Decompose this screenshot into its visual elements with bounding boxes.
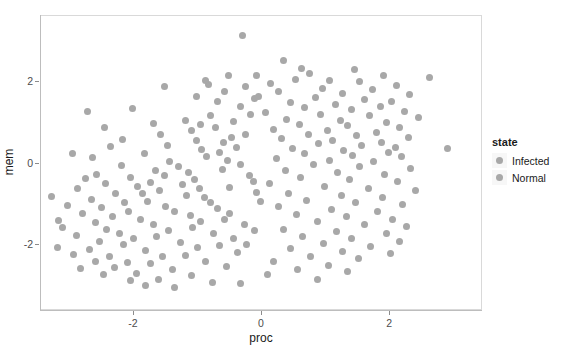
legend-key-swatch	[492, 153, 507, 168]
data-point	[70, 251, 77, 258]
data-point	[383, 119, 390, 126]
data-point	[373, 129, 380, 136]
x-tick-mark	[133, 311, 134, 315]
data-point	[150, 221, 157, 228]
data-point	[185, 169, 192, 176]
data-point	[426, 74, 433, 81]
data-point	[251, 227, 258, 234]
data-point	[162, 203, 169, 210]
data-point	[153, 233, 160, 240]
legend-item-label: Infected	[512, 155, 549, 167]
data-point	[130, 235, 137, 242]
data-point	[157, 131, 164, 138]
data-point	[98, 204, 105, 211]
data-point	[389, 216, 396, 223]
data-point	[203, 153, 210, 160]
data-point	[124, 259, 131, 266]
data-point	[221, 216, 228, 223]
data-point	[107, 143, 114, 150]
data-point	[405, 134, 412, 141]
data-point	[242, 83, 249, 90]
legend-key-swatch	[492, 170, 507, 185]
data-point	[299, 233, 306, 240]
data-point	[275, 203, 282, 210]
data-point	[444, 145, 451, 152]
data-point	[399, 201, 406, 208]
data-point	[343, 213, 350, 220]
data-point	[339, 248, 346, 255]
data-point	[314, 218, 321, 225]
legend-point-icon	[496, 157, 503, 164]
data-point	[334, 169, 341, 176]
data-point	[407, 165, 414, 172]
data-point	[196, 185, 203, 192]
data-point	[339, 90, 346, 97]
y-tick-label: 2	[27, 75, 33, 87]
data-point	[106, 253, 113, 260]
data-point	[169, 266, 176, 273]
data-point	[312, 94, 319, 101]
data-point	[214, 98, 221, 105]
data-point	[377, 103, 384, 110]
data-point	[293, 211, 300, 218]
data-point	[328, 206, 335, 213]
data-point	[253, 72, 260, 79]
data-point	[406, 91, 413, 98]
data-point	[358, 142, 365, 149]
data-point	[367, 243, 374, 250]
y-tick-label: -2	[24, 238, 33, 250]
data-point	[120, 241, 127, 248]
data-point	[179, 181, 186, 188]
data-point	[79, 210, 86, 217]
data-point	[283, 116, 290, 123]
data-point	[152, 167, 159, 174]
data-point	[212, 124, 219, 131]
data-point	[398, 153, 405, 160]
data-point	[101, 124, 108, 131]
data-point	[216, 242, 223, 249]
data-point	[127, 174, 134, 181]
data-point	[355, 255, 362, 262]
y-tick-mark	[35, 244, 39, 245]
data-point	[297, 174, 304, 181]
data-point	[159, 253, 166, 260]
data-point	[210, 230, 217, 237]
data-point	[344, 122, 351, 129]
data-point	[165, 227, 172, 234]
data-point	[344, 268, 351, 275]
data-point	[142, 247, 149, 254]
data-point	[230, 118, 237, 125]
x-tick-label: -2	[128, 317, 137, 329]
data-point	[273, 155, 280, 162]
data-point	[320, 240, 327, 247]
data-point	[396, 238, 403, 245]
x-tick-label: 0	[258, 317, 264, 329]
data-point	[234, 249, 241, 256]
x-tick-label: 2	[386, 317, 392, 329]
data-point	[171, 284, 178, 291]
legend-item[interactable]: Normal	[492, 169, 564, 186]
data-point	[270, 126, 277, 133]
data-point	[401, 108, 408, 115]
data-point	[139, 190, 146, 197]
data-point	[348, 106, 355, 113]
data-point	[326, 157, 333, 164]
data-point	[86, 246, 93, 253]
data-point	[202, 258, 209, 265]
data-point	[92, 258, 99, 265]
data-point	[242, 131, 249, 138]
legend: state InfectedNormal	[492, 136, 564, 186]
data-point	[155, 276, 162, 283]
data-point	[194, 244, 201, 251]
legend-item[interactable]: Infected	[492, 152, 564, 169]
data-point	[412, 187, 419, 194]
data-point	[182, 252, 189, 259]
x-tick-mark	[389, 311, 390, 315]
data-point	[250, 178, 257, 185]
data-point	[233, 144, 240, 151]
data-point	[207, 199, 214, 206]
data-point	[119, 136, 126, 143]
data-point	[387, 250, 394, 257]
data-point	[73, 232, 80, 239]
data-point	[301, 104, 308, 111]
